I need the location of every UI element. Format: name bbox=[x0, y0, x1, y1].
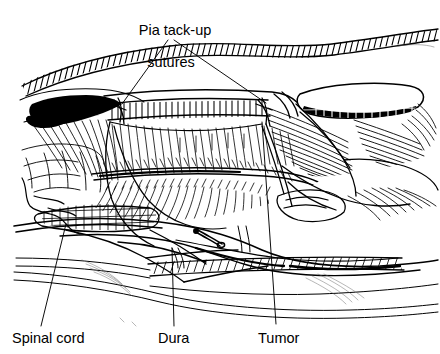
leader-spinal-cord bbox=[41, 224, 66, 326]
leader-dura bbox=[172, 248, 174, 326]
label-pia-tack-up-line2: sutures bbox=[108, 54, 234, 70]
label-dura: Dura bbox=[158, 330, 189, 346]
surgical-illustration-figure: Pia tack-up sutures Spinal cord Dura Tum… bbox=[0, 0, 440, 354]
label-tumor: Tumor bbox=[258, 330, 299, 346]
dura-shadow-wedge bbox=[26, 95, 122, 128]
label-pia-tack-up-sutures: Pia tack-up sutures bbox=[108, 6, 234, 86]
dura-edge-band bbox=[104, 90, 298, 120]
label-pia-tack-up-line1: Pia tack-up bbox=[139, 22, 212, 38]
label-spinal-cord: Spinal cord bbox=[12, 330, 85, 346]
leader-tumor bbox=[262, 122, 276, 324]
